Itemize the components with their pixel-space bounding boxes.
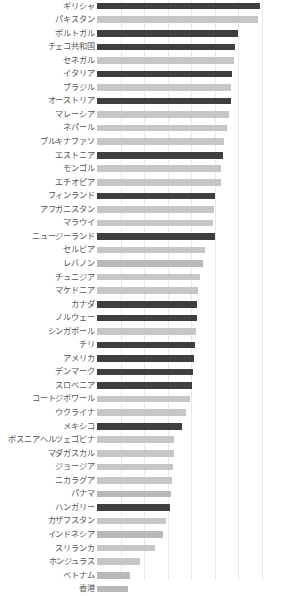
bar: [97, 247, 205, 254]
bar-row: ウクライナ: [0, 406, 285, 420]
bar-row: オーストリア: [0, 94, 285, 108]
bar: [97, 477, 172, 484]
bar: [97, 342, 195, 349]
bar: [97, 450, 174, 457]
category-label: セネガル: [1, 54, 95, 68]
bar: [97, 558, 140, 565]
bar-row: チリ: [0, 338, 285, 352]
bar-track: [97, 555, 285, 569]
bar-track: [97, 433, 285, 447]
bar: [97, 504, 170, 511]
bar: [97, 220, 213, 227]
bar: [97, 464, 173, 471]
bar: [97, 586, 128, 593]
bar-row: ノルウェー: [0, 311, 285, 325]
bar-track: [97, 54, 285, 68]
category-label: フィンランド: [1, 189, 95, 203]
bar: [97, 165, 221, 172]
bar-row: マラウイ: [0, 216, 285, 230]
bar-track: [97, 271, 285, 285]
bar-row: スロベニア: [0, 379, 285, 393]
bar: [97, 3, 260, 10]
bar-track: [97, 542, 285, 556]
bar-row: ベトナム: [0, 569, 285, 583]
bar-row: ネパール: [0, 121, 285, 135]
category-label: インドネシア: [1, 528, 95, 542]
category-label: マケドニア: [1, 284, 95, 298]
category-label: チュニジア: [1, 271, 95, 285]
category-label: アメリカ: [1, 352, 95, 366]
bar-track: [97, 582, 285, 596]
category-label: ジョージア: [1, 460, 95, 474]
bar-row: 香港: [0, 582, 285, 596]
bar: [97, 57, 234, 64]
bar: [97, 193, 215, 200]
bar: [97, 518, 166, 525]
bar-row: マダガスカル: [0, 447, 285, 461]
bar-track: [97, 365, 285, 379]
bar: [97, 396, 190, 403]
bar-track: [97, 569, 285, 583]
bar-row: セネガル: [0, 54, 285, 68]
category-label: アフガニスタン: [1, 203, 95, 217]
bar-track: [97, 257, 285, 271]
bar-track: [97, 298, 285, 312]
bar-track: [97, 528, 285, 542]
bar-track: [97, 406, 285, 420]
bar: [97, 491, 171, 498]
bar-row: マレーシア: [0, 108, 285, 122]
bar-row: アメリカ: [0, 352, 285, 366]
bar-row: フィンランド: [0, 189, 285, 203]
category-label: チェコ共和国: [1, 40, 95, 54]
category-label: ハンガリー: [1, 501, 95, 515]
bar-row: チェコ共和国: [0, 40, 285, 54]
category-label: ポルトガル: [1, 27, 95, 41]
bar-track: [97, 325, 285, 339]
bar: [97, 409, 186, 416]
bar-row: スリランカ: [0, 542, 285, 556]
category-label: ニカラグア: [1, 474, 95, 488]
category-label: スロベニア: [1, 379, 95, 393]
bar-track: [97, 230, 285, 244]
bar-track: [97, 67, 285, 81]
bar-row: メキシコ: [0, 420, 285, 434]
bar-row: ニュージーランド: [0, 230, 285, 244]
category-label: マラウイ: [1, 216, 95, 230]
category-label: 香港: [1, 582, 95, 596]
bar: [97, 179, 221, 186]
bar-track: [97, 311, 285, 325]
bar-row: モンゴル: [0, 162, 285, 176]
bar-track: [97, 0, 285, 13]
category-label: メキシコ: [1, 420, 95, 434]
category-label: パナマ: [1, 487, 95, 501]
bar-track: [97, 338, 285, 352]
bar-track: [97, 149, 285, 163]
bar: [97, 315, 197, 322]
category-label: ブルキナファソ: [1, 135, 95, 149]
bar-track: [97, 501, 285, 515]
category-label: モンゴル: [1, 162, 95, 176]
category-label: デンマーク: [1, 365, 95, 379]
bar: [97, 30, 238, 37]
category-label: カザフスタン: [1, 514, 95, 528]
bar-row: デンマーク: [0, 365, 285, 379]
bar: [97, 84, 231, 91]
category-label: パキスタン: [1, 13, 95, 27]
bar: [97, 287, 198, 294]
bar-track: [97, 379, 285, 393]
bar-track: [97, 392, 285, 406]
bar-row: カザフスタン: [0, 514, 285, 528]
category-label: ネパール: [1, 121, 95, 135]
bar: [97, 355, 194, 362]
bar-track: [97, 487, 285, 501]
category-label: マダガスカル: [1, 447, 95, 461]
bar-track: [97, 474, 285, 488]
bar-row: ハンガリー: [0, 501, 285, 515]
bar: [97, 138, 224, 145]
category-label: ウクライナ: [1, 406, 95, 420]
bar-row: ホンジュラス: [0, 555, 285, 569]
bar-row: セルビア: [0, 243, 285, 257]
bar-row: ボスニアヘルツェゴビナ: [0, 433, 285, 447]
